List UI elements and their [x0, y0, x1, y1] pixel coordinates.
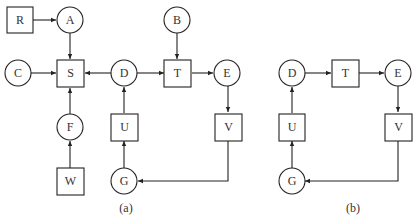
edge-v-g	[138, 140, 228, 181]
label-v: V	[224, 120, 233, 134]
label-b-v: V	[394, 120, 403, 134]
label-b-g: G	[288, 174, 297, 188]
caption-b: (b)	[346, 201, 360, 215]
label-e: E	[223, 66, 230, 80]
label-b: B	[173, 13, 181, 27]
label-b-e: E	[394, 66, 401, 80]
label-f: F	[67, 120, 74, 134]
label-b-d: D	[288, 66, 297, 80]
label-c: C	[14, 66, 22, 80]
diagram-a	[5, 7, 242, 195]
label-r: R	[16, 13, 24, 27]
label-g: G	[120, 174, 129, 188]
label-s: S	[67, 66, 74, 80]
caption-a: (a)	[119, 201, 132, 215]
edge-b-v-g	[305, 140, 398, 181]
diagram-canvas: R A B C S D T E F U V W G (a) D T E U V …	[0, 0, 416, 219]
label-u: U	[120, 120, 129, 134]
label-w: W	[65, 174, 77, 188]
label-t: T	[174, 66, 182, 80]
diagram-b	[279, 60, 412, 194]
label-a: A	[66, 13, 75, 27]
label-b-u: U	[288, 120, 297, 134]
label-d: D	[120, 66, 129, 80]
label-b-t: T	[342, 66, 350, 80]
